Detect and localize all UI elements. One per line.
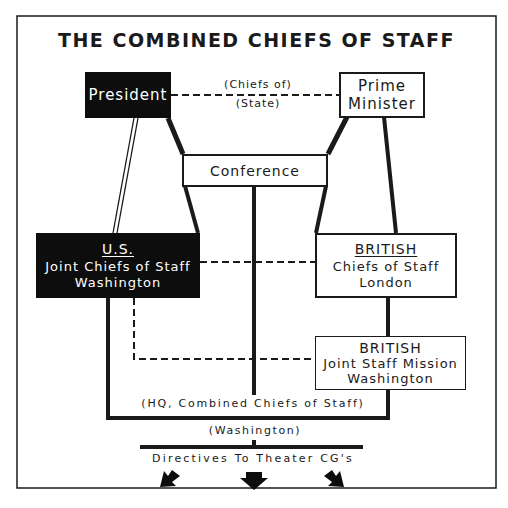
directives-label: Directives To Theater CG's: [140, 452, 366, 465]
british-jsm-line1: Joint Staff Mission: [323, 356, 458, 371]
british-jsm-line2: Washington: [347, 371, 433, 386]
british-cos-heading: BRITISH: [355, 241, 418, 257]
chiefs-of-state-label-1: (Chiefs of): [213, 78, 303, 91]
british-cos-line1: Chiefs of Staff: [333, 259, 440, 275]
node-british-jsm: BRITISH Joint Staff Mission Washington: [315, 336, 466, 390]
jcs-jsm-dashed-link: [134, 298, 315, 359]
pm-conference-link: [328, 117, 347, 154]
president-conference-link: [168, 118, 183, 154]
us-jcs-heading: U.S.: [102, 241, 134, 257]
us-jcs-line2: Washington: [75, 275, 161, 291]
page-title: THE COMBINED CHIEFS OF STAFF: [17, 29, 496, 51]
arrow-right-icon: [324, 470, 344, 487]
us-jcs-line1: Joint Chiefs of Staff: [45, 259, 190, 275]
node-conference: Conference: [182, 154, 328, 187]
node-prime-minister: Prime Minister: [339, 72, 425, 118]
conference-label: Conference: [210, 163, 300, 179]
president-jcs-double-link: [117, 118, 138, 233]
chiefs-of-state-label-2: (State): [213, 97, 303, 110]
british-jsm-heading: BRITISH: [359, 341, 422, 356]
conference-jcs-link: [185, 186, 198, 233]
pm-cos-link: [384, 117, 396, 233]
node-british-cos: BRITISH Chiefs of Staff London: [315, 233, 457, 298]
washington-label: (Washington): [200, 424, 310, 437]
node-president: President: [85, 72, 171, 118]
pm-line2: Minister: [348, 95, 416, 113]
arrow-left-icon: [160, 470, 180, 487]
hq-label: (HQ, Combined Chiefs of Staff): [118, 397, 388, 410]
conference-cos-link: [316, 186, 326, 233]
node-us-jcs: U.S. Joint Chiefs of Staff Washington: [36, 233, 200, 298]
pm-line1: Prime: [358, 77, 406, 95]
president-label: President: [89, 87, 168, 103]
british-cos-line2: London: [359, 275, 413, 291]
